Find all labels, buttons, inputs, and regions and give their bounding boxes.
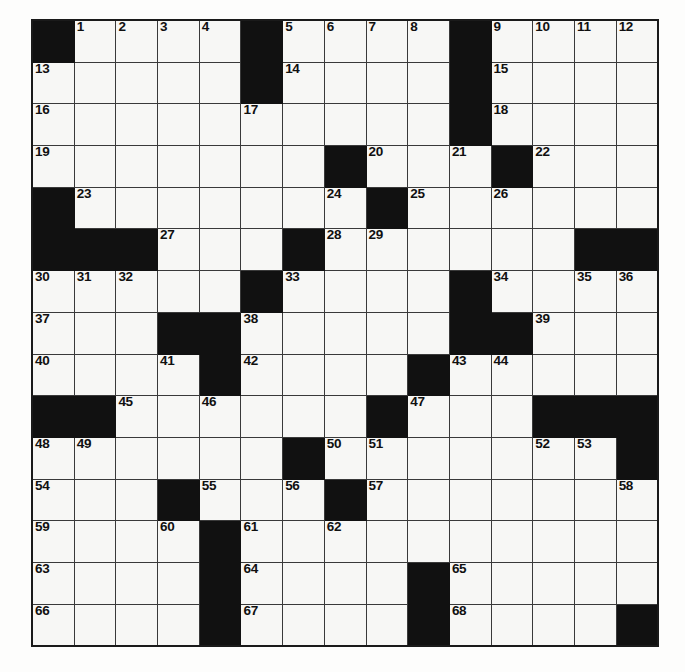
crossword-cell[interactable]: 19 xyxy=(33,146,75,188)
crossword-cell[interactable] xyxy=(283,188,325,230)
crossword-cell[interactable]: 50 xyxy=(325,438,367,480)
crossword-cell[interactable] xyxy=(617,104,659,146)
crossword-cell[interactable]: 52 xyxy=(533,438,575,480)
crossword-cell[interactable] xyxy=(283,146,325,188)
crossword-cell[interactable] xyxy=(533,480,575,522)
crossword-cell[interactable]: 55 xyxy=(200,480,242,522)
crossword-cell[interactable]: 37 xyxy=(33,313,75,355)
crossword-cell[interactable]: 41 xyxy=(158,355,200,397)
crossword-cell[interactable]: 39 xyxy=(533,313,575,355)
crossword-cell[interactable]: 10 xyxy=(533,21,575,63)
crossword-cell[interactable] xyxy=(158,188,200,230)
crossword-cell[interactable] xyxy=(116,104,158,146)
crossword-cell[interactable] xyxy=(158,271,200,313)
crossword-cell[interactable]: 25 xyxy=(408,188,450,230)
crossword-cell[interactable]: 43 xyxy=(450,355,492,397)
crossword-cell[interactable] xyxy=(283,313,325,355)
crossword-cell[interactable] xyxy=(408,313,450,355)
crossword-cell[interactable]: 15 xyxy=(492,63,534,105)
crossword-cell[interactable]: 9 xyxy=(492,21,534,63)
crossword-cell[interactable] xyxy=(116,355,158,397)
crossword-cell[interactable]: 63 xyxy=(33,563,75,605)
crossword-cell[interactable] xyxy=(158,63,200,105)
crossword-cell[interactable]: 49 xyxy=(75,438,117,480)
crossword-cell[interactable] xyxy=(158,563,200,605)
crossword-cell[interactable] xyxy=(325,396,367,438)
crossword-cell[interactable]: 6 xyxy=(325,21,367,63)
crossword-cell[interactable]: 30 xyxy=(33,271,75,313)
crossword-cell[interactable] xyxy=(408,146,450,188)
crossword-cell[interactable] xyxy=(241,146,283,188)
crossword-cell[interactable] xyxy=(241,188,283,230)
crossword-cell[interactable] xyxy=(283,355,325,397)
crossword-cell[interactable]: 38 xyxy=(241,313,283,355)
crossword-cell[interactable] xyxy=(367,271,409,313)
crossword-cell[interactable] xyxy=(158,104,200,146)
crossword-cell[interactable] xyxy=(492,480,534,522)
crossword-cell[interactable] xyxy=(325,355,367,397)
crossword-cell[interactable]: 22 xyxy=(533,146,575,188)
crossword-cell[interactable] xyxy=(575,563,617,605)
crossword-cell[interactable] xyxy=(533,355,575,397)
crossword-cell[interactable]: 18 xyxy=(492,104,534,146)
crossword-cell[interactable] xyxy=(325,271,367,313)
crossword-cell[interactable]: 61 xyxy=(241,521,283,563)
crossword-cell[interactable]: 62 xyxy=(325,521,367,563)
crossword-cell[interactable] xyxy=(116,480,158,522)
crossword-cell[interactable]: 7 xyxy=(367,21,409,63)
crossword-cell[interactable] xyxy=(75,313,117,355)
crossword-cell[interactable] xyxy=(200,438,242,480)
crossword-cell[interactable]: 58 xyxy=(617,480,659,522)
crossword-cell[interactable] xyxy=(241,229,283,271)
crossword-cell[interactable]: 13 xyxy=(33,63,75,105)
crossword-cell[interactable] xyxy=(450,480,492,522)
crossword-cell[interactable]: 54 xyxy=(33,480,75,522)
crossword-cell[interactable] xyxy=(533,521,575,563)
crossword-cell[interactable] xyxy=(241,438,283,480)
crossword-cell[interactable] xyxy=(575,521,617,563)
crossword-cell[interactable]: 20 xyxy=(367,146,409,188)
crossword-cell[interactable] xyxy=(75,605,117,647)
crossword-cell[interactable] xyxy=(116,605,158,647)
crossword-cell[interactable]: 12 xyxy=(617,21,659,63)
crossword-cell[interactable] xyxy=(200,188,242,230)
crossword-cell[interactable] xyxy=(617,63,659,105)
crossword-cell[interactable]: 2 xyxy=(116,21,158,63)
crossword-cell[interactable] xyxy=(116,188,158,230)
crossword-cell[interactable] xyxy=(575,355,617,397)
crossword-cell[interactable] xyxy=(367,63,409,105)
crossword-cell[interactable]: 64 xyxy=(241,563,283,605)
crossword-cell[interactable]: 4 xyxy=(200,21,242,63)
crossword-cell[interactable] xyxy=(617,188,659,230)
crossword-cell[interactable] xyxy=(325,104,367,146)
crossword-cell[interactable] xyxy=(116,438,158,480)
crossword-cell[interactable] xyxy=(575,188,617,230)
crossword-cell[interactable] xyxy=(367,521,409,563)
crossword-cell[interactable]: 67 xyxy=(241,605,283,647)
crossword-cell[interactable] xyxy=(325,563,367,605)
crossword-grid[interactable]: 1234567891011121314151617181920212223242… xyxy=(31,19,659,647)
crossword-cell[interactable] xyxy=(492,396,534,438)
crossword-cell[interactable]: 17 xyxy=(241,104,283,146)
crossword-cell[interactable] xyxy=(158,396,200,438)
crossword-cell[interactable] xyxy=(617,313,659,355)
crossword-cell[interactable] xyxy=(367,313,409,355)
crossword-cell[interactable] xyxy=(492,521,534,563)
crossword-cell[interactable] xyxy=(575,313,617,355)
crossword-cell[interactable] xyxy=(325,63,367,105)
crossword-cell[interactable] xyxy=(408,63,450,105)
crossword-cell[interactable] xyxy=(408,521,450,563)
crossword-cell[interactable] xyxy=(325,313,367,355)
crossword-cell[interactable] xyxy=(533,104,575,146)
crossword-cell[interactable]: 33 xyxy=(283,271,325,313)
crossword-cell[interactable] xyxy=(408,229,450,271)
crossword-cell[interactable] xyxy=(533,63,575,105)
crossword-cell[interactable] xyxy=(75,355,117,397)
crossword-cell[interactable] xyxy=(116,63,158,105)
crossword-cell[interactable] xyxy=(617,563,659,605)
crossword-cell[interactable]: 51 xyxy=(367,438,409,480)
crossword-cell[interactable]: 44 xyxy=(492,355,534,397)
crossword-cell[interactable]: 56 xyxy=(283,480,325,522)
crossword-cell[interactable] xyxy=(158,146,200,188)
crossword-cell[interactable]: 14 xyxy=(283,63,325,105)
